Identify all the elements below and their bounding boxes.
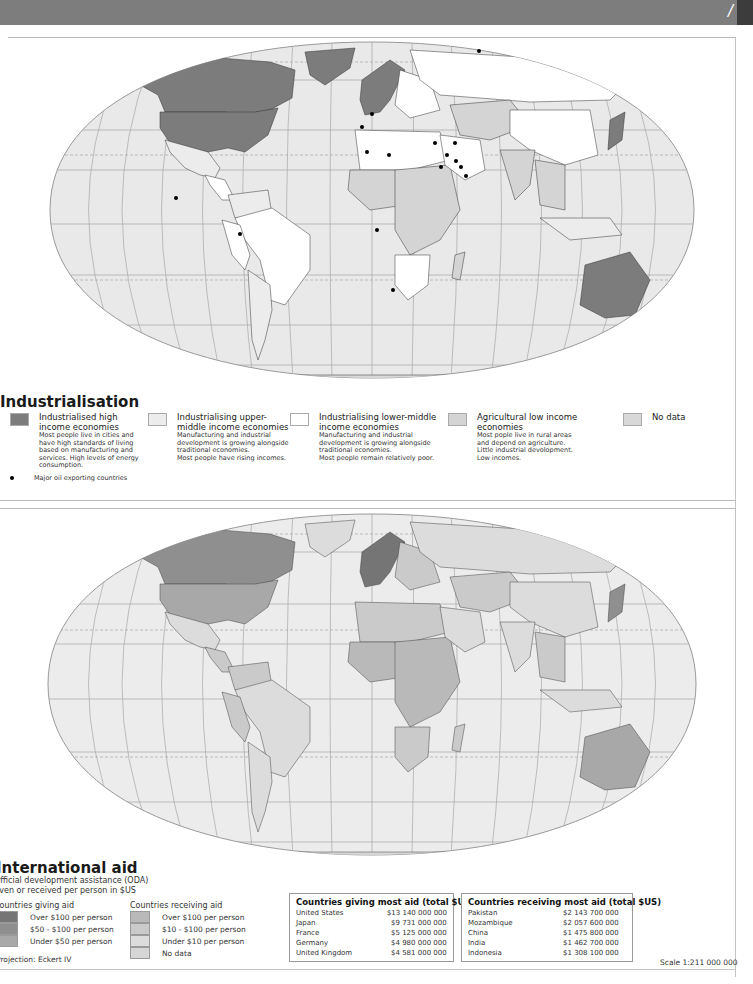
map2-title: International aid [0,859,138,877]
aid-legend-swatch [0,923,18,935]
table-giving-most-aid: Countries giving most aid (total $US) Un… [289,893,454,962]
table-row: Pakistan$2 143 700 000 [468,908,626,918]
table-value: $9 731 000 000 [391,918,447,928]
table-value: $4 980 000 000 [391,938,447,948]
map1-title: Industrialisation [0,393,139,411]
table-value: $13 140 000 000 [387,908,447,918]
aid-legend-label: $50 - $100 per person [30,925,114,934]
legend-description: Most people have rising incomes. [177,455,295,463]
oil-exporter-dot [433,141,437,145]
aid-legend-label: $10 - $100 per person [162,925,246,934]
oil-exporter-dot [360,125,364,129]
table-value: $2 143 700 000 [563,908,619,918]
table-value: $2 057 600 000 [563,918,619,928]
aid-legend-label: Under $10 per person [162,937,244,946]
oil-exporter-dot [445,153,449,157]
table-value: $1 308 100 000 [563,948,619,958]
table-row: Germany$4 980 000 000 [296,938,447,948]
oil-exporter-dot [453,141,457,145]
table-country: Pakistan [468,908,563,918]
legend-description: consumption. [39,462,151,470]
table-row: Mozambique$2 057 600 000 [468,918,626,928]
country-southeast-asia [535,160,565,210]
table-title: Countries giving most aid (total $US) [296,897,447,907]
table-row: France$5 125 000 000 [296,928,447,938]
map2-subtitle-2: given or received per person in $US [0,886,136,896]
legend-heading: Industrialised high income economies [39,413,151,432]
legend-heading: Agricultural low income economies [477,413,588,432]
oil-exporter-dot [391,288,395,292]
table-row: United Kingdom$4 581 000 000 [296,948,447,958]
aid-legend-label: No data [162,949,191,958]
aid-legend-item: Under $50 per person [0,935,112,947]
oil-legend: Major oil exporting countries [10,474,127,482]
header-title-fragment: / [728,2,733,20]
table-row: Japan$9 731 000 000 [296,918,447,928]
table-country: India [468,938,563,948]
table-country: United Kingdom [296,948,391,958]
oil-exporter-dot [477,49,481,53]
legend-item: Industrialising lower-middle income econ… [290,413,430,462]
aid-legend-item: Over $100 per person [0,911,112,923]
legend-item: Industrialised high income economiesMost… [10,413,150,470]
legend-swatch [148,413,167,426]
industrialisation-map[interactable] [10,40,735,380]
page-header-bar: / [0,0,753,25]
projection-label: Projection: Eckert IV [0,955,71,964]
giving-legend-title: Countries giving aid [0,901,74,910]
table-country: France [296,928,391,938]
oil-exporter-dot [238,232,242,236]
aid-legend-swatch [0,935,18,947]
aid-legend-swatch [130,923,150,935]
legend-heading: Industrialising lower-middle income econ… [319,413,437,432]
oil-exporter-dot [375,228,379,232]
aid-legend-item: Over $100 per person [130,911,244,923]
oil-exporter-dot [439,165,443,169]
table-row: United States$13 140 000 000 [296,908,447,918]
legend-description: Low incomes. [477,455,588,463]
legend-item: Industrialising upper-middle income econ… [148,413,288,462]
legend-swatch [10,413,29,426]
legend-description: Most people remain relatively poor. [319,455,437,463]
oil-exporter-dot [370,112,374,116]
table-row: Indonesia$1 308 100 000 [468,948,626,958]
table-country: Japan [296,918,391,928]
table-value: $1 462 700 000 [563,938,619,948]
country-new-zealand [660,315,675,340]
legend-swatch [623,413,642,426]
frame-top-rule [8,37,736,38]
frame-bottom-rule [0,969,736,970]
aid-legend-item: $50 - $100 per person [0,923,114,935]
aid-legend-swatch [130,947,150,959]
oil-exporter-dot [464,174,468,178]
country-southeast-asia [535,632,565,682]
table-country: United States [296,908,387,918]
table-title: Countries receiving most aid (total $US) [468,897,626,907]
oil-exporter-dot [174,196,178,200]
aid-legend-item: $10 - $100 per person [130,923,246,935]
legend-swatch [290,413,309,426]
country-new-zealand [660,787,675,812]
aid-legend-item: No data [130,947,191,959]
scale-label: Scale 1:211 000 000 [660,958,738,967]
aid-legend-item: Under $10 per person [130,935,244,947]
country-antarctica [230,852,530,857]
frame-right-rule [735,37,736,977]
oil-exporter-dot [387,153,391,157]
oil-exporter-dot [459,165,463,169]
international-aid-map[interactable] [10,512,735,857]
legend-heading: No data [652,413,685,423]
table-country: China [468,928,563,938]
country-antarctica [230,375,530,380]
table-row: China$1 475 800 000 [468,928,626,938]
panel-divider [0,508,736,509]
oil-exporter-dot [454,159,458,163]
aid-legend-label: Under $50 per person [30,937,112,946]
legend-swatch [448,413,467,426]
aid-legend-swatch [0,911,18,923]
aid-legend-label: Over $100 per person [30,913,112,922]
table-country: Mozambique [468,918,563,928]
table-country: Indonesia [468,948,563,958]
receiving-legend-title: Countries receiving aid [130,901,222,910]
aid-legend-label: Over $100 per person [162,913,244,922]
